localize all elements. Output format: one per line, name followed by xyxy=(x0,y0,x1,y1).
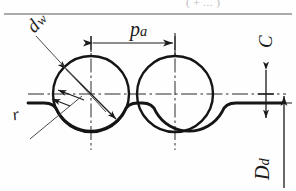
dw-leader-line xyxy=(36,36,106,112)
label-pitch-subscript: a xyxy=(140,23,147,39)
ball-diameter-dimension xyxy=(36,36,116,119)
label-clearance: C xyxy=(255,35,277,48)
label-root-diameter-subscript: d xyxy=(256,158,272,165)
engineering-drawing-figure: ( + ... ) dw pa r C Dd xyxy=(0,0,296,191)
clearance-dimension xyxy=(258,70,274,118)
label-root-diameter-symbol: D xyxy=(251,166,273,180)
label-clearance-symbol: C xyxy=(255,35,276,48)
label-root-diameter: Dd xyxy=(251,158,274,180)
label-pitch-symbol: p xyxy=(130,18,140,40)
top-cutoff-text: ( + ... ) xyxy=(186,0,221,8)
label-pitch: pa xyxy=(130,18,147,41)
vertical-centerlines xyxy=(91,36,175,150)
dw-leader-arrow xyxy=(58,90,84,100)
